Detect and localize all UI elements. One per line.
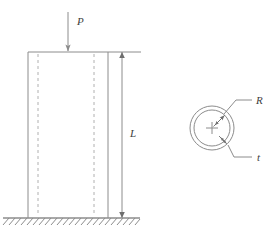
radius-label: R (255, 94, 263, 106)
figure-canvas: P L R t (0, 0, 275, 240)
ground-support (3, 218, 140, 225)
radius-leader (224, 100, 252, 114)
length-label: L (129, 127, 136, 139)
length-arrowhead-top (119, 52, 125, 58)
length-dimension-group (119, 52, 125, 218)
column-body (28, 52, 108, 218)
hidden-bore-lines (38, 54, 94, 216)
cross-section-group (190, 100, 252, 157)
radius-dimension-group (214, 116, 225, 127)
thickness-leader (228, 145, 252, 157)
load-label: P (76, 15, 84, 27)
column-elevation-group (3, 12, 141, 225)
ground-hatching-icon (3, 218, 140, 225)
radius-arrow-inward (215, 116, 225, 126)
engineering-figure: P L R t (0, 0, 275, 240)
length-arrowhead-bottom (119, 212, 125, 218)
thickness-label: t (257, 151, 261, 163)
